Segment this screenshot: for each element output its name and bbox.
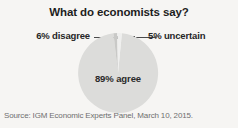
source-note: Source: IGM Economic Experts Panel, Marc… [4,111,193,120]
pie-callout-label-uncertain: 5% uncertain [148,30,234,41]
pie-chart-figure: What do economists say? 6% disagree 5% u… [0,0,238,128]
pie-center-label-agree: 89% agree [68,73,168,84]
chart-title: What do economists say? [0,6,238,18]
